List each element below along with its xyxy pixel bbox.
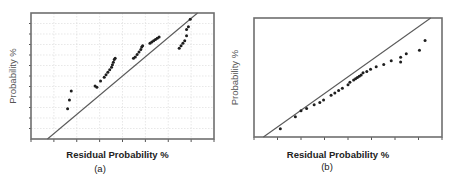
chart-a-x-axis-label: Residual Probability %: [66, 149, 169, 160]
data-point: [341, 87, 344, 90]
data-point: [68, 98, 71, 101]
data-point: [399, 61, 402, 64]
data-point: [185, 28, 188, 31]
data-point: [322, 99, 325, 102]
data-point: [141, 44, 144, 47]
data-point: [158, 35, 161, 38]
data-point: [108, 68, 111, 71]
chart-b-y-axis-label: Probability %: [229, 49, 240, 105]
data-point: [333, 91, 336, 94]
chart-a-ticks: [29, 24, 214, 143]
data-point: [362, 71, 365, 74]
data-point: [137, 51, 140, 54]
data-point: [369, 68, 372, 71]
data-point: [300, 109, 303, 112]
data-point: [136, 53, 139, 56]
chart-a-y-axis-label: Probability %: [7, 48, 18, 104]
chart-a: Probability % Residual Probability % (a): [7, 13, 214, 174]
data-point: [390, 59, 393, 62]
data-point: [183, 39, 186, 42]
data-point: [134, 56, 137, 59]
chart-a-points: [66, 18, 192, 110]
data-point: [337, 89, 340, 92]
data-point: [66, 107, 69, 110]
data-point: [99, 80, 102, 83]
data-point: [279, 127, 282, 130]
data-point: [70, 90, 73, 93]
chart-b: Probability % Residual Probability % (b): [229, 18, 442, 172]
data-point: [305, 107, 308, 110]
data-point: [313, 103, 316, 106]
chart-b-panel-label: (b): [321, 161, 333, 172]
data-point: [95, 86, 98, 89]
data-point: [365, 70, 368, 73]
data-point: [375, 65, 378, 68]
chart-b-x-axis-label: Residual Probability %: [287, 149, 390, 160]
chart-b-fit-line: [263, 18, 430, 137]
data-point: [424, 39, 427, 42]
data-point: [185, 34, 188, 37]
data-point: [330, 94, 333, 97]
chart-a-panel-label: (a): [94, 163, 106, 174]
data-point: [418, 49, 421, 52]
data-point: [181, 42, 184, 45]
data-point: [360, 74, 363, 77]
data-point: [180, 44, 183, 47]
data-point: [189, 18, 192, 21]
chart-b-points: [279, 39, 427, 130]
figure: Probability % Residual Probability % (a)…: [0, 0, 451, 181]
data-point: [318, 101, 321, 104]
data-point: [103, 76, 106, 79]
data-point: [114, 57, 117, 60]
data-point: [294, 115, 297, 118]
data-point: [105, 73, 108, 76]
data-point: [348, 81, 351, 84]
data-point: [382, 63, 385, 66]
data-point: [106, 71, 109, 74]
data-point: [178, 47, 181, 50]
data-point: [347, 83, 350, 86]
data-point: [405, 52, 408, 55]
data-point: [187, 25, 190, 28]
data-point: [399, 56, 402, 59]
